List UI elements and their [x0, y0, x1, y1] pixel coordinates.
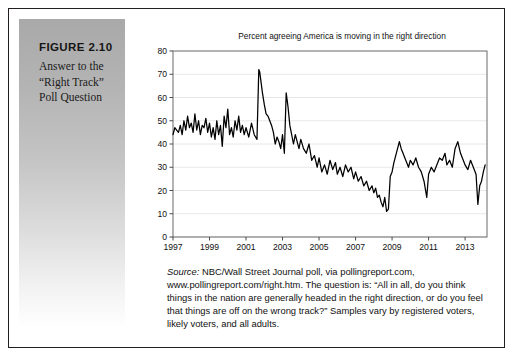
figure-caption-line-2: “Right Track”: [39, 75, 131, 91]
svg-text:1997: 1997: [163, 242, 182, 252]
svg-text:10: 10: [157, 209, 167, 219]
svg-text:2013: 2013: [456, 242, 475, 252]
svg-text:1999: 1999: [200, 242, 219, 252]
svg-text:50: 50: [157, 116, 167, 126]
figure-caption-line-3: Poll Question: [39, 90, 131, 106]
source-text: NBC/Wall Street Journal poll, via pollin…: [167, 266, 483, 329]
svg-text:60: 60: [157, 93, 167, 103]
figure-box: FIGURE 2.10 Answer to the “Right Track” …: [8, 8, 505, 348]
svg-text:2003: 2003: [273, 242, 292, 252]
figure-caption-line-1: Answer to the: [39, 59, 131, 75]
svg-text:2001: 2001: [236, 242, 255, 252]
svg-text:2011: 2011: [419, 242, 438, 252]
svg-text:30: 30: [157, 162, 167, 172]
svg-text:20: 20: [157, 186, 167, 196]
svg-text:40: 40: [157, 139, 167, 149]
svg-text:2009: 2009: [383, 242, 402, 252]
source-caption: Source: NBC/Wall Street Journal poll, vi…: [167, 265, 487, 330]
svg-text:80: 80: [157, 46, 167, 56]
svg-text:70: 70: [157, 69, 167, 79]
figure-caption: Answer to the “Right Track” Poll Questio…: [39, 59, 131, 106]
svg-text:0: 0: [162, 232, 167, 242]
figure-label-panel: FIGURE 2.10 Answer to the “Right Track” …: [19, 19, 125, 337]
chart-container: Percent agreeing America is moving in th…: [143, 31, 503, 256]
svg-text:2007: 2007: [346, 242, 365, 252]
source-label: Source:: [167, 266, 199, 277]
line-chart: 0102030405060708019971999200120032005200…: [143, 31, 503, 256]
svg-text:2005: 2005: [309, 242, 328, 252]
figure-number: FIGURE 2.10: [39, 41, 135, 53]
